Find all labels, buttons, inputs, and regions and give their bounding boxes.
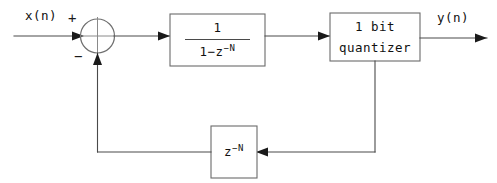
delay-base: z: [224, 144, 232, 159]
feedback-tap-wire: [256, 61, 375, 157]
input-signal-label: x(n): [25, 8, 57, 23]
integrator-to-quantizer-wire: [265, 32, 330, 41]
quantizer-label-line1: 1 bit: [330, 19, 420, 34]
summing-junction-minus-sign: −: [74, 48, 83, 64]
output-signal-label: y(n): [437, 10, 469, 25]
delay-block-label: z−N: [211, 144, 257, 159]
integrator-numerator-label: 1: [170, 20, 265, 35]
summing-junction-plus-sign: +: [68, 10, 77, 26]
integrator-denominator-base: 1−z: [200, 44, 224, 59]
integrator-denominator-exponent: −N: [224, 43, 236, 53]
delay-exponent: −N: [232, 143, 244, 153]
quantizer-label-line2: quantizer: [330, 40, 420, 55]
block-diagram-canvas: x(n) + − 1 1−z−N 1 bit quantizer y(n) z−…: [0, 0, 497, 183]
input-wire: [14, 32, 84, 41]
summing-junction-symbol: [80, 17, 115, 57]
summer-to-integrator-wire: [114, 32, 170, 41]
output-wire: [420, 34, 487, 43]
integrator-denominator-label: 1−z−N: [170, 44, 265, 59]
feedback-return-wire: [93, 53, 211, 152]
